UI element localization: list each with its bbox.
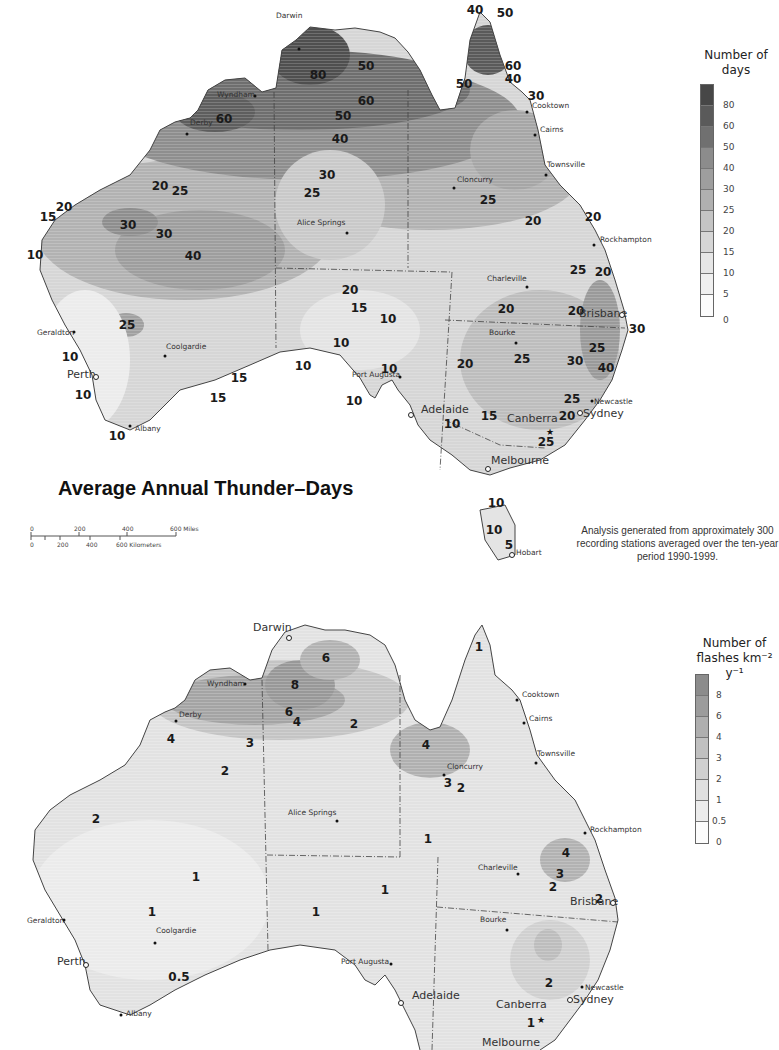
contour-value-label: 10 xyxy=(109,429,126,443)
city-label: Bourke xyxy=(489,328,515,337)
capital-star-icon: ★ xyxy=(537,1015,545,1025)
contour-value-label: 15 xyxy=(481,409,498,423)
contour-value-label: 10 xyxy=(444,417,461,431)
city-dot-icon xyxy=(593,244,596,247)
contour-value-label: 1 xyxy=(475,640,483,654)
city-label: Port Augusta xyxy=(352,370,400,379)
city-label: Canberra xyxy=(496,998,547,1011)
contour-value-label: 1 xyxy=(192,870,200,884)
city-dot-icon xyxy=(517,873,520,876)
contour-value-label: 60 xyxy=(505,59,522,73)
city-dot-icon xyxy=(523,722,526,725)
city-dot-icon xyxy=(591,400,594,403)
contour-value-label: 30 xyxy=(156,227,173,241)
contour-value-label: 4 xyxy=(167,732,175,746)
contour-value-label: 80 xyxy=(310,68,327,82)
major-city-marker-icon xyxy=(286,635,292,641)
contour-value-label: 3 xyxy=(444,776,452,790)
legend-tick: 50 xyxy=(723,142,734,152)
city-dot-icon xyxy=(120,1014,123,1017)
contour-value-label: 1 xyxy=(312,905,320,919)
major-city-marker-icon xyxy=(398,1000,404,1006)
scale-km-400: 400 xyxy=(86,541,97,548)
scale-miles-0: 0 xyxy=(30,525,34,532)
city-dot-icon xyxy=(443,774,446,777)
city-label: Darwin xyxy=(276,11,302,20)
contour-value-label: 40 xyxy=(332,132,349,146)
city-label: Charleville xyxy=(487,274,527,283)
contour-value-label: 20 xyxy=(595,265,612,279)
legend-tick: 80 xyxy=(723,100,734,110)
contour-value-label: 20 xyxy=(498,302,515,316)
legend-flashes: Number of flashes km⁻² y⁻¹ 8 6 4 3 2 1 0… xyxy=(690,636,779,681)
city-dot-icon xyxy=(390,963,393,966)
legend-tick: 25 xyxy=(723,205,734,215)
contour-value-label: 30 xyxy=(319,168,336,182)
legend-title-line2: days xyxy=(693,63,779,78)
legend-tick: 1 xyxy=(716,795,722,805)
contour-value-label: 15 xyxy=(210,391,227,405)
city-label: Charleville xyxy=(478,863,518,872)
city-dot-icon xyxy=(545,174,548,177)
legend-color-bar xyxy=(700,84,714,317)
city-label: Perth xyxy=(57,955,86,968)
legend-tick: 4 xyxy=(716,732,722,742)
scale-km-0: 0 xyxy=(30,541,34,548)
city-label: Cairns xyxy=(540,125,564,134)
city-label: Bourke xyxy=(480,915,506,924)
city-label: Sydney xyxy=(583,407,624,420)
scale-bar-ruler xyxy=(30,531,190,543)
contour-value-label: 50 xyxy=(497,6,514,20)
major-city-marker-icon xyxy=(509,552,515,558)
city-label: Canberra xyxy=(507,412,558,425)
city-dot-icon xyxy=(535,762,538,765)
city-label: Geraldton xyxy=(37,328,74,337)
contour-value-label: 0.5 xyxy=(168,970,189,984)
contour-value-label: 50 xyxy=(358,59,375,73)
contour-value-label: 5 xyxy=(505,538,513,552)
contour-value-label: 20 xyxy=(342,283,359,297)
city-label: Alice Springs xyxy=(297,218,346,227)
legend-title-line1: Number of xyxy=(690,636,779,651)
city-label: Perth xyxy=(67,368,96,381)
major-city-marker-icon xyxy=(485,466,491,472)
city-dot-icon xyxy=(129,425,132,428)
contour-value-label: 10 xyxy=(295,359,312,373)
contour-value-label: 1 xyxy=(148,905,156,919)
city-label: Cairns xyxy=(529,714,553,723)
city-label: Geraldton xyxy=(27,916,64,925)
city-dot-icon xyxy=(63,919,66,922)
legend-tick: 15 xyxy=(723,247,734,257)
city-dot-icon xyxy=(73,331,76,334)
legend-color-bar xyxy=(695,674,709,844)
major-city-marker-icon xyxy=(577,410,583,416)
major-city-marker-icon xyxy=(619,312,625,318)
city-label: Cooktown xyxy=(522,690,559,699)
city-label: Rockhampton xyxy=(590,825,642,834)
city-label: Townsville xyxy=(547,160,585,169)
city-label: Melbourne xyxy=(482,1036,540,1049)
contour-value-label: 20 xyxy=(559,409,576,423)
contour-value-label: 10 xyxy=(62,350,79,364)
major-city-marker-icon xyxy=(610,900,616,906)
thunder-days-map: Number of days 80 60 50 40 30 25 20 15 1… xyxy=(0,0,779,580)
contour-value-label: 20 xyxy=(457,357,474,371)
city-dot-icon xyxy=(186,133,189,136)
contour-value-label: 30 xyxy=(629,322,646,336)
australia-flash-density-map-svg xyxy=(0,620,779,1050)
contour-value-label: 10 xyxy=(346,394,363,408)
city-dot-icon xyxy=(526,286,529,289)
city-dot-icon xyxy=(346,232,349,235)
contour-value-label: 25 xyxy=(480,193,497,207)
city-label: Cloncurry xyxy=(457,175,493,184)
contour-value-label: 25 xyxy=(538,435,555,449)
contour-value-label: 8 xyxy=(291,678,299,692)
contour-value-label: 1 xyxy=(381,883,389,897)
analysis-note: Analysis generated from approximately 30… xyxy=(575,524,779,563)
city-label: Rockhampton xyxy=(600,235,652,244)
city-label: Newcastle xyxy=(594,397,633,406)
city-dot-icon xyxy=(506,929,509,932)
contour-value-label: 25 xyxy=(589,341,606,355)
city-label: Wyndham xyxy=(207,679,245,688)
contour-value-label: 25 xyxy=(564,392,581,406)
